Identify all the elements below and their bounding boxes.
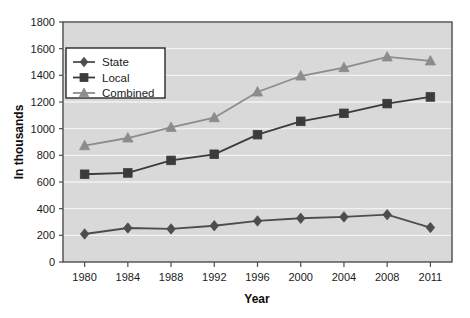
legend-item-label: State (102, 56, 129, 68)
x-tick-label: 1988 (159, 271, 183, 283)
legend-item-local[interactable]: Local (73, 72, 130, 84)
data-point-marker (210, 150, 219, 159)
x-tick-label: 1984 (116, 271, 140, 283)
data-point-marker (124, 169, 133, 178)
y-tick-label: 1200 (31, 96, 55, 108)
y-tick-label: 600 (37, 176, 55, 188)
y-tick-label: 1000 (31, 123, 55, 135)
y-axis-title: In thousands (12, 104, 26, 179)
x-tick-label: 1992 (202, 271, 226, 283)
y-tick-label: 1600 (31, 43, 55, 55)
y-tick-label: 1800 (31, 16, 55, 28)
data-point-marker (80, 170, 89, 179)
y-tick-label: 0 (49, 256, 55, 268)
y-tick-label: 400 (37, 203, 55, 215)
x-tick-label: 1980 (72, 271, 96, 283)
data-point-marker (80, 74, 88, 82)
legend-item-label: Local (102, 72, 130, 84)
x-axis-title: Year (244, 292, 270, 306)
x-tick-label: 2004 (332, 271, 356, 283)
line-chart: 020040060080010001200140016001800 198019… (0, 0, 470, 318)
x-tick-label: 2000 (288, 271, 312, 283)
legend-item-label: Combined (102, 87, 154, 99)
y-tick-label: 200 (37, 229, 55, 241)
chart-svg: 020040060080010001200140016001800 198019… (0, 0, 470, 318)
chart-legend: StateLocalCombined (66, 48, 165, 99)
data-point-marker (296, 117, 305, 126)
x-tick-label: 1996 (245, 271, 269, 283)
x-tick-label: 2008 (375, 271, 399, 283)
data-point-marker (383, 99, 392, 108)
data-point-marker (253, 130, 262, 139)
data-point-marker (426, 93, 435, 102)
x-axis-tick-labels: 198019841988199219962000200420082011 (72, 271, 442, 283)
y-tick-label: 1400 (31, 69, 55, 81)
data-point-marker (340, 109, 349, 118)
data-point-marker (167, 156, 176, 165)
x-tick-label: 2011 (419, 271, 443, 283)
y-tick-label: 800 (37, 149, 55, 161)
